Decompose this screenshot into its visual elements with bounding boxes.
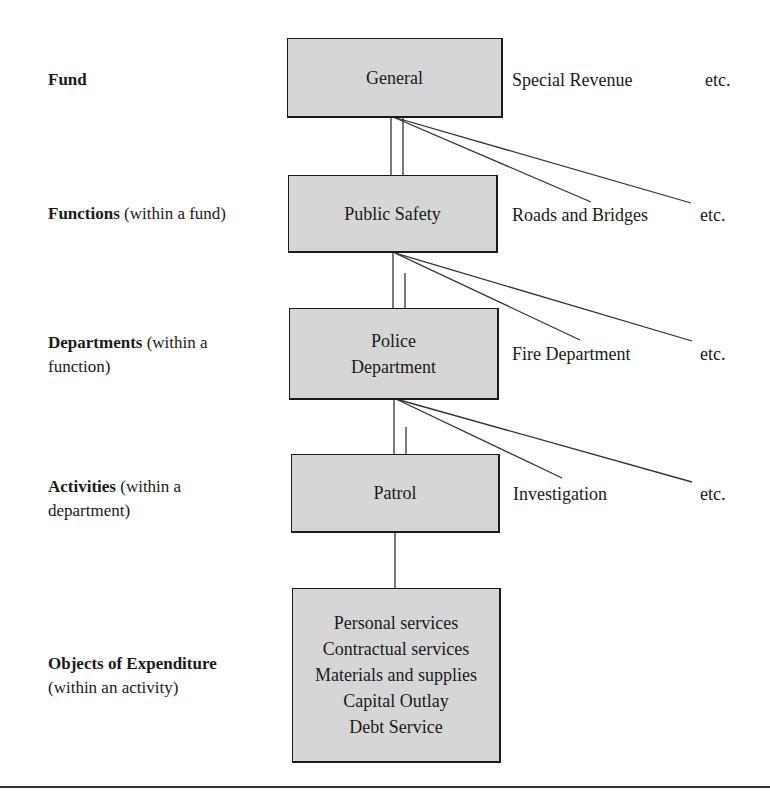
sibling-fund-etc: etc.	[705, 68, 730, 92]
object-item: Contractual services	[323, 636, 469, 662]
level-label-activities: Activities (within a department)	[48, 475, 181, 523]
horizontal-rule	[0, 786, 770, 788]
object-item: Debt Service	[349, 714, 442, 740]
box-label-line1: Police	[371, 328, 416, 354]
object-item: Personal services	[334, 610, 458, 636]
sibling-department-etc: etc.	[700, 342, 725, 366]
box-department-police: Police Department	[289, 308, 499, 400]
object-item: Materials and supplies	[315, 662, 477, 688]
sibling-activity: Investigation	[513, 482, 607, 506]
box-activity-patrol: Patrol	[291, 454, 500, 533]
level-label-objects: Objects of Expenditure (within an activi…	[48, 652, 217, 700]
level-label-fund: Fund	[48, 68, 87, 92]
level-label-departments: Departments (within a function)	[48, 331, 208, 379]
box-label: Patrol	[374, 480, 417, 506]
box-objects-of-expenditure: Personal services Contractual services M…	[292, 588, 501, 763]
sibling-activity-etc: etc.	[700, 482, 725, 506]
box-label: General	[366, 65, 423, 91]
sibling-function: Roads and Bridges	[512, 203, 648, 227]
box-function-public-safety: Public Safety	[288, 175, 498, 253]
object-item: Capital Outlay	[343, 688, 448, 714]
sibling-function-etc: etc.	[700, 203, 725, 227]
box-label-line2: Department	[351, 354, 436, 380]
box-fund-general: General	[287, 38, 503, 118]
level-label-functions: Functions (within a fund)	[48, 202, 226, 226]
sibling-fund: Special Revenue	[512, 68, 632, 92]
sibling-department: Fire Department	[512, 342, 630, 366]
box-label: Public Safety	[344, 201, 441, 227]
